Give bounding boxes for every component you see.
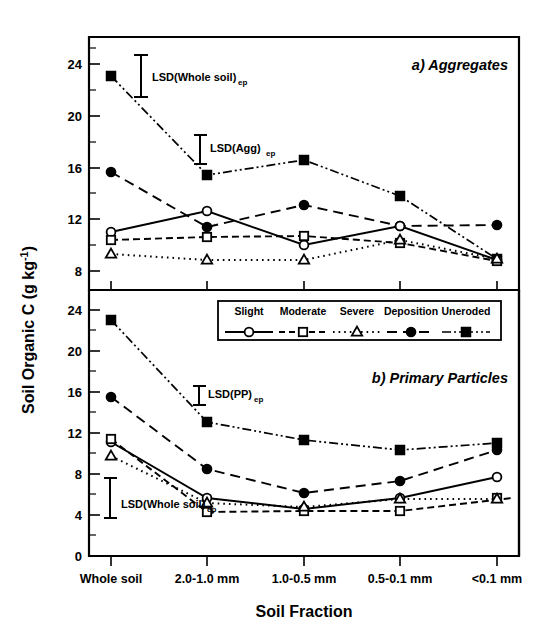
panel-a-lsd-whole-soil-label: LSD(Whole soil) (152, 71, 237, 83)
chart-legend: Slight Moderate Severe Deposition Unerod… (218, 301, 501, 340)
panel-a-title: a) Aggregates (412, 57, 508, 73)
panel-b-title: b) Primary Particles (372, 370, 508, 386)
xtick-label-1-05mm: 1.0-0.5 mm (272, 572, 337, 586)
xtick-label-lt01mm: <0.1 mm (472, 572, 522, 586)
panel-b-ytick-4: 4 (75, 508, 83, 523)
panel-b-ytick-16: 16 (68, 385, 82, 400)
panel-a-ytick-16: 16 (68, 161, 82, 176)
panel-b-ytick-12: 12 (68, 426, 82, 441)
panel-b-ytick-8: 8 (75, 467, 82, 482)
legend-label-deposition[interactable]: Deposition (384, 305, 438, 317)
figure-container: 24 20 16 12 8 a) Aggregates (0, 0, 558, 636)
soil-organic-carbon-chart: 24 20 16 12 8 a) Aggregates (0, 0, 558, 636)
xtick-label-2-1mm: 2.0-1.0 mm (175, 572, 240, 586)
panel-b-ytick-0: 0 (75, 549, 82, 564)
y-axis-title-exponent: -1 (18, 251, 30, 261)
panel-b-lsd-pp-label: LSD(PP) (208, 388, 252, 400)
y-axis-title-main: Soil Organic C (g kg (20, 261, 37, 414)
xtick-label-05-01mm: 0.5-0.1 mm (368, 572, 433, 586)
x-axis-title: Soil Fraction (256, 603, 353, 620)
legend-label-severe[interactable]: Severe (340, 305, 375, 317)
panel-a-ytick-12: 12 (68, 212, 82, 227)
y-axis-title: Soil Organic C (g kg-1) (18, 246, 37, 414)
legend-label-slight[interactable]: Slight (234, 305, 264, 317)
panel-b-ytick-24: 24 (68, 303, 83, 318)
panel-a-ytick-8: 8 (75, 264, 82, 279)
panel-a-lsd-agg-sub: ep (266, 149, 275, 158)
panel-a-ytick-24: 24 (68, 57, 83, 72)
panel-b-lsd-whole-soil-sub: ep (207, 505, 216, 514)
xtick-label-whole-soil: Whole soil (80, 572, 143, 586)
panel-a-lsd-agg-label: LSD(Agg) (210, 142, 261, 154)
panel-a-lsd-whole-soil-sub: ep (238, 78, 247, 87)
panel-b-lsd-whole-soil-label: LSD(Whole soil) (121, 498, 206, 510)
panel-b-ytick-20: 20 (68, 344, 82, 359)
legend-label-moderate[interactable]: Moderate (280, 305, 327, 317)
panel-b-lsd-pp-sub: ep (254, 395, 263, 404)
y-axis-title-tail: ) (20, 246, 37, 251)
svg-text:Soil Organic C (g kg-1): Soil Organic C (g kg-1) (18, 246, 37, 414)
legend-label-uneroded[interactable]: Uneroded (441, 305, 490, 317)
panel-a-ytick-20: 20 (68, 109, 82, 124)
